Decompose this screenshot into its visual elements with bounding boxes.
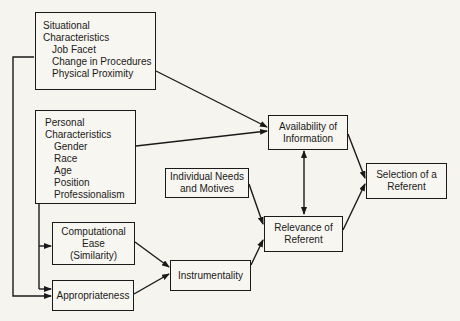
node-label: Relevance of [274, 222, 332, 234]
node-label: Referent [387, 181, 425, 193]
node-label: Availability of [279, 121, 337, 133]
node-title: Situational [43, 20, 155, 32]
node-title: Characteristics [45, 129, 135, 141]
node-label: Computational [61, 226, 125, 238]
node-label: Individual Needs [170, 171, 244, 183]
node-item: Gender [45, 141, 135, 153]
node-instrumentality: Instrumentality [170, 260, 251, 291]
edge-appropriateness-instrumentality [134, 274, 169, 294]
node-individual-needs: Individual Needs and Motives [165, 168, 249, 198]
node-situational-characteristics: Situational Characteristics Job Facet Ch… [35, 12, 156, 90]
node-label: Information [283, 133, 333, 145]
node-label: Ease [82, 238, 105, 250]
node-item: Position [45, 177, 135, 189]
node-label: Referent [284, 234, 322, 246]
node-label: Appropriateness [57, 290, 130, 302]
edge-personal-availability [136, 131, 267, 146]
node-item: Job Facet [43, 44, 155, 56]
node-availability-of-information: Availability of Information [268, 115, 348, 150]
node-title: Characteristics [43, 32, 155, 44]
node-computational-ease: Computational Ease (Similarity) [52, 222, 135, 265]
node-item: Race [45, 153, 135, 165]
edge-computational-instrumentality [135, 242, 169, 267]
edge-availability-selection [348, 134, 365, 178]
node-label: Instrumentality [178, 270, 243, 282]
node-title: Personal [45, 117, 135, 129]
node-relevance-of-referent: Relevance of Referent [264, 216, 343, 252]
edge-situational-availability [156, 71, 267, 127]
node-item: Professionalism [45, 189, 135, 201]
node-label: and Motives [180, 183, 234, 195]
edge-instrumentality-relevance [251, 240, 263, 265]
node-label: (Similarity) [70, 250, 117, 262]
node-appropriateness: Appropriateness [52, 280, 134, 311]
edge-needs-relevance [249, 184, 263, 224]
node-item: Age [45, 165, 135, 177]
node-item: Change in Procedures [43, 56, 155, 68]
edge-relevance-selection [343, 184, 365, 230]
node-label: Selection of a [376, 169, 437, 181]
node-personal-characteristics: Personal Characteristics Gender Race Age… [35, 110, 136, 204]
node-selection-of-referent: Selection of a Referent [366, 163, 447, 199]
node-item: Physical Proximity [43, 68, 155, 80]
